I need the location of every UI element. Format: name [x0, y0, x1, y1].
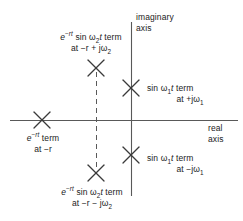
pole-label-upper-right: sin ω1t term at +jω1 — [147, 83, 233, 105]
pole-label-lower-left-location: at −r − jω2 — [43, 198, 141, 209]
real-axis-label-line2: axis — [208, 134, 224, 145]
pole-label-upper-right-term: sin ω1t term — [147, 83, 233, 94]
real-axis-label: real axis — [208, 123, 224, 145]
pole-label-lower-left-term: e−rt sin ω2t term — [43, 187, 141, 198]
pole-label-upper-right-location: at +jω1 — [147, 94, 233, 105]
imaginary-axis-label: imaginary axis — [136, 12, 174, 34]
pole-label-real-axis-term: e−rt term — [5, 133, 81, 144]
pole-label-lower-right-location: at −jω1 — [147, 164, 233, 175]
pole-label-lower-right: sin ω1t term at −jω1 — [147, 153, 233, 175]
imaginary-axis-label-line1: imaginary — [136, 12, 174, 23]
pole-zero-figure: imaginary axis real axis e−rt sin ω2t te… — [0, 0, 243, 221]
pole-label-real-axis: e−rt term at −r — [5, 133, 81, 155]
pole-label-real-axis-location: at −r — [5, 144, 81, 155]
pole-label-upper-left: e−rt sin ω2t term at −r + jω2 — [47, 32, 135, 54]
pole-label-lower-left: e−rt sin ω2t term at −r − jω2 — [43, 187, 141, 209]
real-axis-label-line1: real — [208, 123, 224, 134]
imaginary-axis-label-line2: axis — [136, 23, 174, 34]
pole-label-upper-left-term: e−rt sin ω2t term — [47, 32, 135, 43]
pole-label-lower-right-term: sin ω1t term — [147, 153, 233, 164]
pole-label-upper-left-location: at −r + jω2 — [47, 43, 135, 54]
pole-marker-lower-left — [88, 165, 104, 181]
